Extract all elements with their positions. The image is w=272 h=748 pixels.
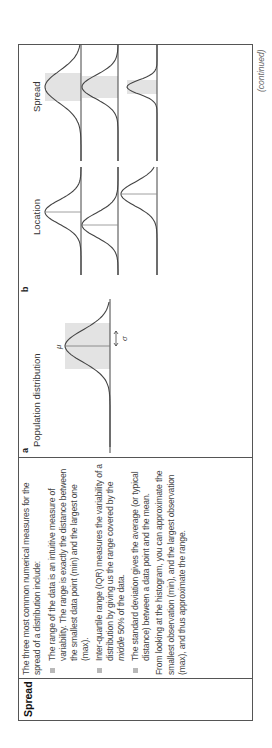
location-curve: [82, 167, 118, 275]
spread-shade-band: [127, 80, 157, 94]
spread-curve: [82, 45, 118, 161]
iqr-text-pre: Inter-quartile range (IQR) measures the …: [94, 464, 115, 661]
range-text: The range of the data is an intuitive me…: [47, 469, 91, 661]
sigma-arrow-icon: [114, 331, 118, 346]
rotated-page: Spread The three most common numerical m…: [0, 0, 272, 748]
location-curve: [121, 167, 157, 275]
intro-text: The three most common numerical measures…: [21, 461, 44, 675]
spread-curve: [127, 45, 157, 161]
row-label: Spread: [22, 681, 34, 717]
list-item-iqr: Inter-quartile range (IQR) measures the …: [94, 461, 128, 675]
spread-table: Spread The three most common numerical m…: [18, 44, 253, 721]
distribution-figure: μσ: [19, 45, 254, 457]
spread-shade-band: [82, 76, 118, 98]
row-label-cell: Spread: [19, 678, 252, 720]
square-bullet-icon: [133, 668, 138, 673]
description-cell: The three most common numerical measures…: [19, 457, 252, 678]
closing-text: From looking at the histogram, you can a…: [154, 461, 188, 675]
list-item-range: The range of the data is an intuitive me…: [47, 461, 92, 675]
continued-note: (continued): [256, 49, 266, 92]
list-item-std: The standard deviation gives the average…: [130, 461, 153, 675]
location-curve: [45, 167, 81, 275]
iqr-text-emphasis: middle: [116, 637, 126, 661]
figure-cell: a Population distribution b Location Spr…: [19, 45, 252, 457]
iqr-text-post: 50% of the data.: [116, 574, 126, 636]
sigma-label: σ: [120, 335, 129, 341]
spread-curve: [45, 45, 81, 161]
measures-list: The range of the data is an intuitive me…: [47, 461, 153, 675]
mu-label: μ: [54, 344, 63, 350]
square-bullet-icon: [97, 668, 102, 673]
square-bullet-icon: [50, 668, 55, 673]
std-text: The standard deviation gives the average…: [130, 472, 151, 662]
